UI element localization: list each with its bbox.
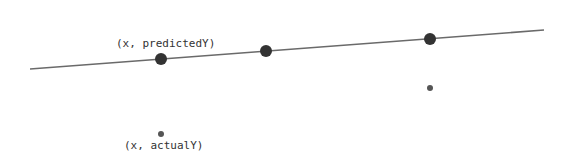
actual-point-label: (x, actualY) bbox=[124, 140, 203, 151]
predicted-point-3 bbox=[424, 33, 436, 45]
regression-line bbox=[30, 30, 544, 69]
regression-diagram: (x, predictedY) (x, actualY) bbox=[0, 0, 571, 163]
diagram-canvas bbox=[0, 0, 571, 163]
actual-points bbox=[158, 85, 433, 137]
actual-point-1 bbox=[158, 131, 164, 137]
predicted-point-2 bbox=[260, 45, 272, 57]
predicted-point-1 bbox=[155, 53, 167, 65]
actual-point-2 bbox=[427, 85, 433, 91]
predicted-point-label: (x, predictedY) bbox=[116, 38, 215, 49]
